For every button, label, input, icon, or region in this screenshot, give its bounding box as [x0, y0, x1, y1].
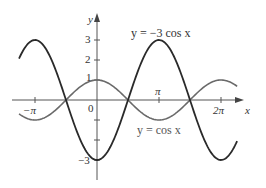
- tick-label-1: 1: [86, 72, 92, 83]
- tick-label-2pi: 2π: [213, 105, 224, 116]
- origin-label: 0: [88, 103, 94, 114]
- x-axis-label: x: [245, 105, 250, 116]
- tick-label-neg-pi: −π: [23, 105, 36, 116]
- tick-label-pi: π: [155, 86, 161, 97]
- equation-label-neg3-cos: y = −3 cos x: [131, 27, 191, 39]
- y-axis-arrow-icon: [94, 13, 100, 22]
- tick-label-2: 2: [85, 54, 91, 65]
- y-axis-label: y: [88, 14, 93, 25]
- tick-label-3: 3: [85, 34, 91, 45]
- x-axis-arrow-icon: [235, 97, 244, 103]
- equation-label-cos: y = cos x: [137, 124, 181, 136]
- tick-label-neg3: −3: [78, 155, 90, 166]
